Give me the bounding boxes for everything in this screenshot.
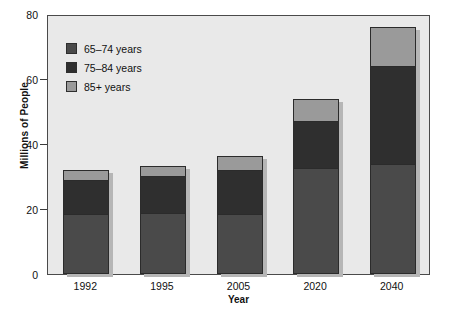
legend-swatch-icon — [66, 81, 77, 92]
legend-swatch-icon — [66, 43, 77, 54]
bar-segment — [63, 170, 109, 181]
y-axis-tick-label: 60 — [26, 73, 38, 87]
bar-segment — [293, 99, 339, 122]
y-axis-tick-label: 20 — [26, 203, 38, 217]
bar-segment — [217, 170, 263, 214]
bar-stack — [217, 156, 263, 274]
x-axis-tick-label: 1992 — [55, 280, 115, 292]
bar-segment — [217, 156, 263, 170]
bar-segment — [140, 213, 186, 274]
y-axis-tick-mark — [40, 144, 47, 145]
legend-item: 75–84 years — [66, 59, 142, 76]
bar-stack — [63, 170, 109, 274]
legend-item: 85+ years — [66, 78, 142, 95]
legend-item-label: 65–74 years — [84, 43, 142, 55]
bar-stack — [293, 99, 339, 275]
legend: 65–74 years75–84 years85+ years — [66, 40, 142, 97]
bar-segment — [63, 180, 109, 213]
bar-segment — [140, 166, 186, 176]
bar-stack — [370, 27, 416, 274]
y-axis-tick-mark — [40, 209, 47, 210]
legend-item-label: 75–84 years — [84, 62, 142, 74]
stacked-bar-chart: Millions of People 806040200 65–74 years… — [0, 0, 455, 317]
bar-segment — [370, 164, 416, 275]
plot-area: 65–74 years75–84 years85+ years — [47, 15, 430, 275]
x-axis-tick-label: 2020 — [285, 280, 345, 292]
legend-swatch-icon — [66, 62, 77, 73]
bar-segment — [217, 214, 263, 274]
bar-segment — [370, 27, 416, 66]
bar-segment — [293, 121, 339, 168]
y-axis: 806040200 — [0, 0, 47, 317]
x-axis-tick-label: 1995 — [132, 280, 192, 292]
x-axis-tick-label: 2040 — [362, 280, 422, 292]
y-axis-tick-label: 40 — [26, 138, 38, 152]
bar-stack — [140, 166, 186, 274]
bar-segment — [293, 168, 339, 274]
bar-segment — [370, 66, 416, 164]
bar-segment — [63, 214, 109, 274]
y-axis-tick-label: 0 — [32, 268, 38, 282]
x-axis-title: Year — [47, 294, 430, 305]
y-axis-tick-label: 80 — [26, 8, 38, 22]
y-axis-tick-mark — [40, 79, 47, 80]
legend-item: 65–74 years — [66, 40, 142, 57]
legend-item-label: 85+ years — [84, 81, 130, 93]
x-axis-tick-label: 2005 — [209, 280, 269, 292]
bar-segment — [140, 176, 186, 213]
